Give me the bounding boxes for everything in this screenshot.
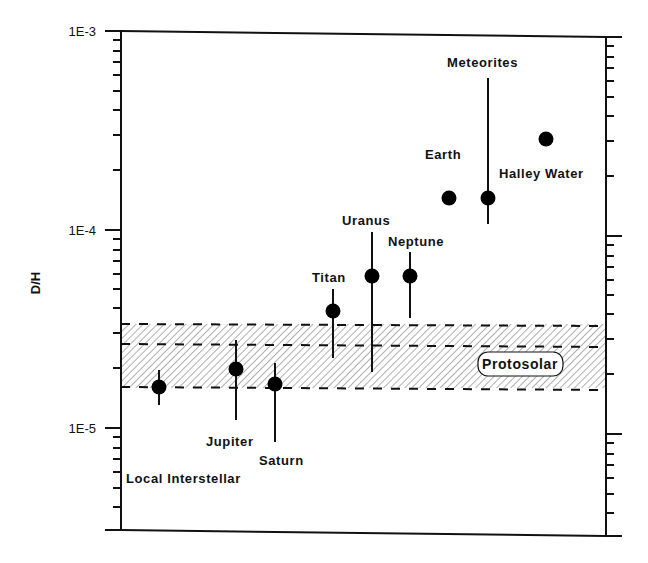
label-neptune: Neptune	[388, 234, 444, 249]
protosolar-label: Protosolar	[482, 356, 558, 372]
label-local-interstellar: Local Interstellar	[126, 471, 241, 486]
label-halley-water: Halley Water	[499, 166, 584, 181]
point-halley-water	[539, 132, 554, 147]
dh-ratio-chart: Protosolar	[0, 0, 648, 563]
label-meteorites: Meteorites	[447, 55, 518, 70]
tick-label-1e-3: 1E-3	[69, 24, 96, 39]
label-earth: Earth	[425, 147, 461, 162]
point-earth	[442, 191, 457, 206]
point-local-interstellar	[152, 380, 167, 395]
left-axis-ticks	[105, 31, 121, 530]
label-jupiter: Jupiter	[206, 434, 254, 449]
point-titan	[326, 304, 341, 319]
point-jupiter	[229, 362, 244, 377]
label-titan: Titan	[312, 270, 346, 285]
right-axis-ticks	[606, 37, 622, 536]
protosolar-label-box: Protosolar	[478, 352, 563, 376]
point-meteorites	[481, 191, 496, 206]
plot-frame	[121, 31, 606, 536]
point-uranus	[365, 269, 380, 284]
point-saturn	[268, 377, 283, 392]
point-neptune	[403, 269, 418, 284]
tick-label-1e-5: 1E-5	[69, 421, 96, 436]
y-axis-title: D/H	[28, 272, 43, 294]
tick-label-1e-4: 1E-4	[69, 223, 96, 238]
label-saturn: Saturn	[259, 453, 304, 468]
label-uranus: Uranus	[342, 213, 390, 228]
